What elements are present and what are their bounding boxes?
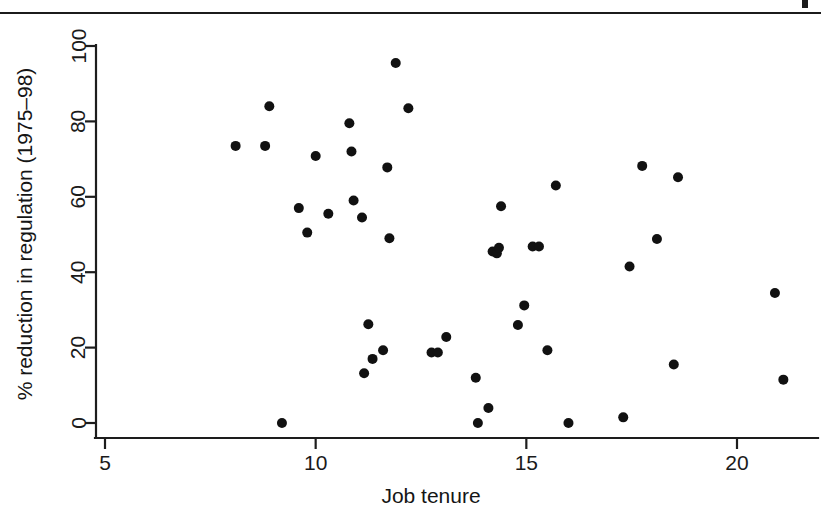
data-point — [368, 354, 378, 364]
data-point — [652, 234, 662, 244]
data-point — [231, 141, 241, 151]
data-point — [669, 360, 679, 370]
data-point — [363, 319, 373, 329]
data-point — [294, 203, 304, 213]
data-point — [534, 242, 544, 252]
data-point — [323, 209, 333, 219]
y-tick-label-20: 20 — [67, 336, 90, 359]
data-point — [542, 345, 552, 355]
data-point — [391, 58, 401, 68]
data-point — [483, 403, 493, 413]
x-tick-label-15: 15 — [515, 451, 538, 474]
y-axis-title-text: % reduction in regulation (1975–98) — [13, 68, 36, 401]
data-point — [625, 262, 635, 272]
data-point — [277, 418, 287, 428]
data-point — [260, 141, 270, 151]
data-point — [770, 288, 780, 298]
y-tick-label-80: 80 — [67, 110, 90, 133]
y-tick-label-60: 60 — [67, 185, 90, 208]
scatter-plot-figure: 0204060801005101520Job tenure% reduction… — [0, 0, 821, 530]
x-tick-label-5: 5 — [99, 451, 111, 474]
data-point — [433, 348, 443, 358]
data-points-group — [231, 58, 789, 428]
data-point — [384, 233, 394, 243]
x-tick-label-10: 10 — [304, 451, 327, 474]
data-point — [471, 373, 481, 383]
data-point — [378, 345, 388, 355]
data-point — [551, 180, 561, 190]
data-point — [519, 300, 529, 310]
data-point — [346, 147, 356, 157]
y-tick-label-0: 0 — [67, 417, 90, 429]
data-point — [302, 228, 312, 238]
y-tick-label-100: 100 — [67, 28, 90, 63]
data-point — [382, 162, 392, 172]
data-point — [473, 418, 483, 428]
data-point — [637, 161, 647, 171]
x-axis-title-text: Job tenure — [381, 484, 480, 507]
data-point — [563, 418, 573, 428]
data-point — [359, 368, 369, 378]
data-point — [403, 103, 413, 113]
data-point — [513, 320, 523, 330]
data-point — [494, 243, 504, 253]
data-point — [778, 375, 788, 385]
data-point — [344, 118, 354, 128]
data-point — [311, 151, 321, 161]
data-point — [441, 332, 451, 342]
data-point — [673, 172, 683, 182]
data-point — [618, 412, 628, 422]
plot-area: 0204060801005101520Job tenure% reduction… — [0, 0, 821, 530]
x-tick-label-20: 20 — [725, 451, 748, 474]
plot-canvas: 0204060801005101520Job tenure% reduction… — [0, 0, 821, 530]
data-point — [264, 101, 274, 111]
data-point — [357, 213, 367, 223]
y-tick-label-40: 40 — [67, 261, 90, 284]
data-point — [496, 201, 506, 211]
data-point — [349, 196, 359, 206]
